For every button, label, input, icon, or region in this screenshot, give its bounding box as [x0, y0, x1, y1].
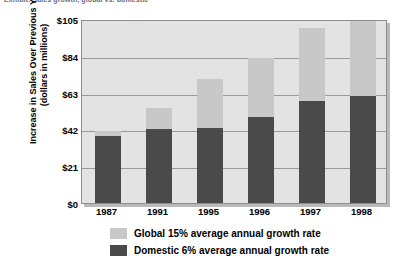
- bar-group[interactable]: [299, 28, 325, 203]
- legend-label: Domestic 6% average annual growth rate: [134, 245, 329, 256]
- y-axis-tick: $63: [38, 88, 78, 99]
- legend-swatch: [110, 245, 127, 256]
- bar-segment-domestic[interactable]: [350, 96, 376, 203]
- legend-item[interactable]: Global 15% average annual growth rate: [110, 225, 390, 242]
- bar-segment-domestic[interactable]: [248, 117, 274, 203]
- x-axis-tick: 1995: [184, 206, 234, 217]
- bar-segment-domestic[interactable]: [95, 136, 121, 203]
- bar-segment-domestic[interactable]: [299, 101, 325, 203]
- y-axis-tick: $42: [38, 125, 78, 136]
- legend-item[interactable]: Domestic 6% average annual growth rate: [110, 242, 390, 259]
- bar-group[interactable]: [95, 131, 121, 203]
- bar-group[interactable]: [197, 79, 223, 203]
- bar-segment-domestic[interactable]: [197, 128, 223, 203]
- legend-label: Global 15% average annual growth rate: [134, 228, 321, 239]
- y-axis-tick: $0: [38, 199, 78, 210]
- bar-segment-global[interactable]: [248, 58, 274, 118]
- bar-group[interactable]: [146, 108, 172, 203]
- bar-segment-global[interactable]: [146, 108, 172, 129]
- bar-segment-global[interactable]: [197, 79, 223, 128]
- y-axis-tick-labels: $0$21$42$63$84$105: [38, 14, 78, 204]
- legend-swatch: [110, 228, 127, 239]
- stacked-bar-chart: Exhibit: Sales growth, global vs. domest…: [0, 0, 396, 274]
- bars-layer: [82, 21, 386, 203]
- x-axis-tick: 1997: [286, 206, 336, 217]
- bar-group[interactable]: [350, 21, 376, 203]
- x-axis-tick: 1998: [337, 206, 387, 217]
- x-axis-tick: 1996: [235, 206, 285, 217]
- y-axis-tick: $105: [38, 15, 78, 26]
- bar-segment-global[interactable]: [299, 28, 325, 102]
- bar-group[interactable]: [248, 58, 274, 203]
- x-axis-tick-labels: 198719911995199619971998: [81, 206, 387, 222]
- bar-segment-global[interactable]: [350, 21, 376, 96]
- plot-area: [81, 20, 387, 204]
- x-axis-tick: 1987: [82, 206, 132, 217]
- legend: Global 15% average annual growth rateDom…: [110, 225, 390, 259]
- y-axis-tick: $84: [38, 51, 78, 62]
- x-axis-tick: 1991: [133, 206, 183, 217]
- y-axis-tick: $21: [38, 162, 78, 173]
- bar-segment-domestic[interactable]: [146, 129, 172, 203]
